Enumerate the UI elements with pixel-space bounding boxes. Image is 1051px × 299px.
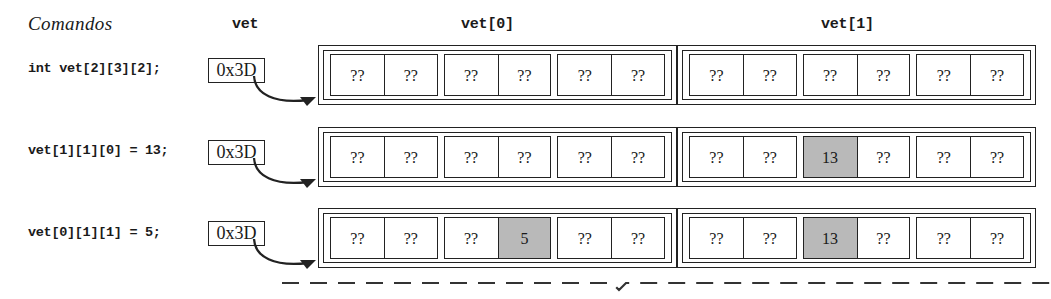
pointer-arrow-icon: [252, 239, 324, 273]
array-cell: ??: [857, 55, 910, 95]
array-cell: ??: [804, 55, 857, 95]
block-1-header: vet[1]: [821, 16, 874, 33]
array-cell-pair: ????: [330, 217, 438, 259]
array-cell: ??: [743, 218, 796, 258]
array-block-1: ????13??????: [677, 127, 1036, 187]
array-block-inner: ??????5????: [323, 213, 672, 263]
array-cell-highlighted: 5: [498, 218, 551, 258]
array-cell-pair: ????: [444, 54, 552, 96]
array-cell-pair: ????: [557, 54, 665, 96]
array-cell: ??: [743, 55, 796, 95]
array-cell-pair: ??5: [444, 217, 552, 259]
array-block-inner: ????????????: [323, 50, 672, 100]
array-cell: ??: [384, 137, 437, 177]
array-cell: ??: [558, 55, 611, 95]
array-cell: ??: [690, 137, 743, 177]
array-memory-diagram: Comandos vet vet[0] vet[1] int vet[2][3]…: [0, 0, 1051, 299]
array-cell-pair: ????: [557, 136, 665, 178]
command-text: vet[0][1][1] = 5;: [28, 225, 161, 240]
array-cell: ??: [690, 218, 743, 258]
array-cell: ??: [857, 137, 910, 177]
array-cell-pair: 13??: [803, 217, 911, 259]
command-text: int vet[2][3][2];: [28, 61, 161, 76]
array-cell-pair: ????: [916, 136, 1024, 178]
array-cell-highlighted: 13: [804, 137, 857, 177]
array-row: ????????????????13??????: [318, 127, 1036, 187]
array-cell: ??: [917, 55, 970, 95]
array-cell: ??: [445, 55, 498, 95]
pointer-arrow-icon: [252, 76, 324, 110]
array-cell-pair: ????: [689, 136, 797, 178]
array-cell: ??: [331, 137, 384, 177]
array-block-0: ????????????: [318, 45, 677, 105]
array-cell: ??: [498, 55, 551, 95]
array-block-1: ????????????: [677, 45, 1036, 105]
array-cell: ??: [331, 55, 384, 95]
pointer-arrow-icon: [252, 158, 324, 192]
array-block-inner: ????13??????: [682, 213, 1031, 263]
array-cell: ??: [445, 218, 498, 258]
array-cell: ??: [558, 218, 611, 258]
array-block-inner: ????????????: [323, 132, 672, 182]
array-cell-pair: ????: [557, 217, 665, 259]
array-cell-pair: ????: [689, 217, 797, 259]
array-cell: ??: [917, 137, 970, 177]
array-block-1: ????13??????: [677, 208, 1036, 268]
array-block-0: ????????????: [318, 127, 677, 187]
array-cell: ??: [970, 55, 1023, 95]
array-block-inner: ????????????: [682, 50, 1031, 100]
pointer-column-header: vet: [232, 16, 258, 33]
array-row: ??????5????????13??????: [318, 208, 1036, 268]
array-cell: ??: [331, 218, 384, 258]
array-cell: ??: [384, 218, 437, 258]
array-cell: ??: [857, 218, 910, 258]
array-cell-pair: ????: [916, 54, 1024, 96]
array-cell-pair: ????: [444, 136, 552, 178]
array-cell: ??: [445, 137, 498, 177]
array-cell-pair: ????: [689, 54, 797, 96]
command-text: vet[1][1][0] = 13;: [28, 143, 168, 158]
array-cell: ??: [970, 137, 1023, 177]
array-cell: ??: [690, 55, 743, 95]
array-block-0: ??????5????: [318, 208, 677, 268]
array-cell: ??: [384, 55, 437, 95]
array-cell: ??: [970, 218, 1023, 258]
commands-column-header: Comandos: [28, 13, 113, 35]
array-cell: ??: [498, 137, 551, 177]
dashed-brace-underline: [282, 277, 1051, 293]
array-cell-pair: ????: [330, 136, 438, 178]
array-cell: ??: [558, 137, 611, 177]
array-cell: ??: [917, 218, 970, 258]
array-cell: ??: [611, 55, 664, 95]
block-0-header: vet[0]: [461, 16, 514, 33]
array-cell-highlighted: 13: [804, 218, 857, 258]
array-cell-pair: ????: [916, 217, 1024, 259]
array-cell: ??: [611, 218, 664, 258]
array-cell-pair: ????: [803, 54, 911, 96]
array-block-inner: ????13??????: [682, 132, 1031, 182]
array-row: ????????????????????????: [318, 45, 1036, 105]
array-cell-pair: 13??: [803, 136, 911, 178]
array-cell-pair: ????: [330, 54, 438, 96]
array-cell: ??: [611, 137, 664, 177]
array-cell: ??: [743, 137, 796, 177]
